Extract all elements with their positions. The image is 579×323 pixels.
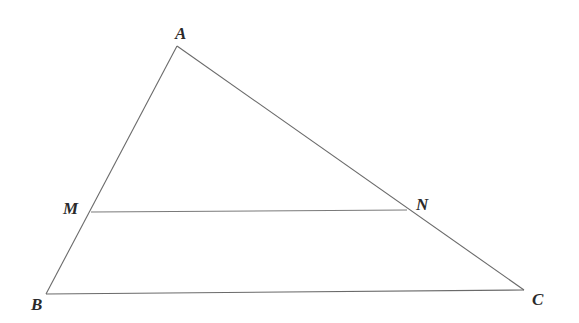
segment-AB bbox=[46, 46, 177, 294]
label-C: C bbox=[532, 290, 544, 309]
label-N: N bbox=[415, 195, 429, 214]
label-M: M bbox=[62, 199, 79, 218]
segment-MN bbox=[91, 210, 407, 212]
triangle-diagram: A B C M N bbox=[0, 0, 579, 323]
segment-CA bbox=[177, 46, 524, 290]
label-B: B bbox=[30, 295, 42, 314]
segment-BC bbox=[46, 290, 524, 294]
label-A: A bbox=[174, 24, 186, 43]
